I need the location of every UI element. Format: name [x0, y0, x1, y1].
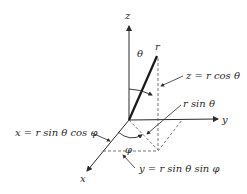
phi-label: φ [125, 144, 132, 155]
theta-label: θ [137, 48, 143, 59]
z-component-label: z = r cos θ [185, 70, 240, 81]
projection-label: r sin θ [183, 98, 215, 109]
x-axis-label: x [80, 173, 86, 184]
y-axis-label: y [221, 114, 228, 125]
y-axis [129, 119, 218, 120]
r-label: r [155, 41, 161, 52]
projection-dashed-line [129, 120, 158, 150]
y-component-dashed-line [158, 120, 182, 151]
phi-arc [118, 132, 142, 138]
x-component-label: x = r sin θ cos φ [15, 127, 97, 138]
z-component-arrow [161, 76, 183, 86]
y-component-label: y = r sin θ sin φ [138, 163, 219, 174]
y-component-arrow [123, 155, 135, 168]
spherical-coordinates-diagram: z y x r θ φ z = r cos θ r sin θ x = r si… [0, 0, 247, 194]
z-axis-label: z [124, 10, 131, 21]
r-vector [129, 56, 157, 120]
